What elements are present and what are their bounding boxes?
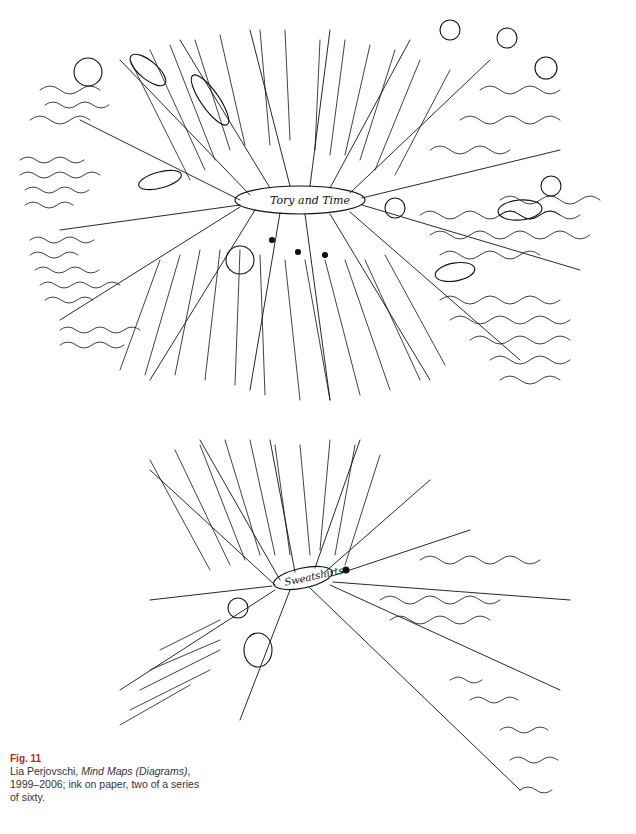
figure-number: Fig. 11 xyxy=(10,752,210,765)
svg-text:Tory and Time: Tory and Time xyxy=(270,194,351,207)
caption-artist: Lia Perjovschi, xyxy=(10,765,78,777)
caption-text: Lia Perjovschi, Mind Maps (Diagrams), 19… xyxy=(10,765,210,804)
top-map: Tory and Time xyxy=(20,20,600,400)
caption-title: Mind Maps (Diagrams) xyxy=(81,765,187,777)
figure-caption: Fig. 11 Lia Perjovschi, Mind Maps (Diagr… xyxy=(10,752,210,804)
svg-text:Sweatshirts: Sweatshirts xyxy=(283,565,344,588)
bottom-map: Sweatshirts xyxy=(120,440,570,793)
mind-map-figure: Tory and Time xyxy=(0,0,636,834)
mind-maps-drawing: Tory and Time xyxy=(0,0,636,834)
